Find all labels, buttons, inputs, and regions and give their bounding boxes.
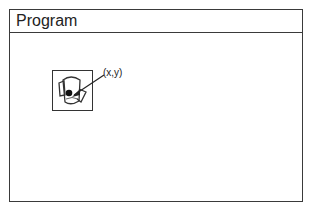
hotspot-label: (x,y) bbox=[103, 67, 122, 78]
hotspot-arrow bbox=[10, 33, 300, 203]
program-window: Program (x,y) bbox=[9, 9, 303, 202]
window-title: Program bbox=[10, 10, 302, 33]
